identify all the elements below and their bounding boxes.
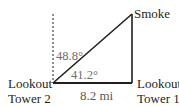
tower2-label-line2: Tower 2 — [8, 91, 51, 106]
distance-label: 8.2 mi — [80, 88, 113, 103]
tower1-label-line1: Lookout — [137, 76, 179, 91]
tower2-label-line1: Lookout — [8, 76, 52, 91]
smoke-label: Smoke — [134, 6, 170, 21]
angle-label-base: 41.2° — [71, 68, 98, 83]
triangle-diagram: Smoke 48.8° 41.2° Lookout Tower 2 Lookou… — [0, 0, 179, 106]
angle-label-north: 48.8° — [56, 49, 83, 64]
tower1-label-line2: Tower 1 — [137, 91, 179, 106]
